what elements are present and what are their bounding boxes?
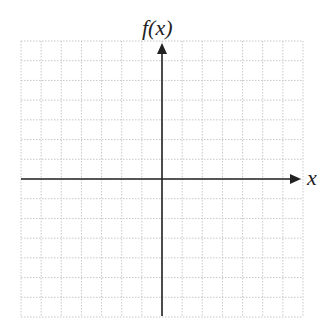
x-axis-arrow-icon — [290, 174, 301, 184]
y-axis-label: f(x) — [142, 15, 173, 40]
coordinate-plane: f(x) x — [0, 0, 324, 325]
y-axis-arrow-icon — [157, 43, 167, 54]
x-axis-label: x — [306, 165, 317, 190]
